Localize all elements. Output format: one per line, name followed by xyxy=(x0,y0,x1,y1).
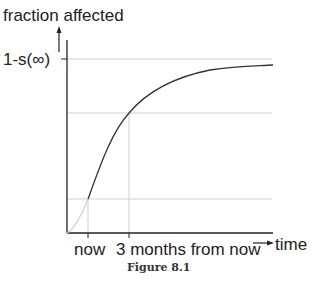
x-axis-arrowhead-icon xyxy=(267,241,274,246)
x-axis-label: time xyxy=(275,235,307,254)
figure-caption: Figure 8.1 xyxy=(127,261,190,274)
y-tick-asymptote-label: 1-s(∞) xyxy=(3,50,50,69)
x-tick-now-label: now xyxy=(74,240,106,259)
y-axis-arrowhead-icon xyxy=(57,26,62,33)
x-tick-three-months-label: 3 months from now xyxy=(116,240,261,259)
projected-curve xyxy=(88,65,273,199)
y-axis-label: fraction affected xyxy=(3,6,124,25)
figure-8-1: fraction affected 1-s(∞) now 3 months fr… xyxy=(0,0,313,285)
past-curve xyxy=(67,199,88,233)
